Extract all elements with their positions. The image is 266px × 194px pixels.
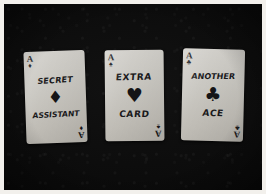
playing-card[interactable]: A ♣ ANOTHER ♣ ACE A ♣ — [181, 48, 245, 141]
corner-index-bottom-right: A ♠ — [155, 123, 161, 138]
card-handwriting-top: EXTRA — [116, 72, 153, 83]
corner-index-bottom-right: A ♣ — [234, 124, 241, 139]
card-handwriting-top: SECRET — [37, 74, 73, 85]
felt-backdrop: A ♦ SECRET ♦ ASSISTANT A ♦ A ♠ EXTRA ♥ C — [4, 4, 262, 190]
diamond-icon: ♦ — [48, 88, 64, 106]
heart-icon: ♥ — [126, 86, 143, 105]
card-handwriting-bottom: ACE — [201, 108, 223, 119]
playing-card[interactable]: A ♠ EXTRA ♥ CARD A ♠ — [105, 50, 165, 142]
spade-icon: ♠ — [156, 123, 160, 130]
club-icon: ♣ — [204, 85, 222, 104]
card-handwriting-bottom: ASSISTANT — [32, 108, 80, 119]
photograph: A ♦ SECRET ♦ ASSISTANT A ♦ A ♠ EXTRA ♥ C — [0, 0, 266, 194]
diamond-icon: ♦ — [79, 124, 83, 131]
corner-index-bottom-right: A ♦ — [78, 124, 85, 139]
card-handwriting-bottom: CARD — [119, 109, 150, 119]
card-handwriting-top: ANOTHER — [191, 72, 236, 81]
club-icon: ♣ — [235, 124, 240, 131]
playing-card[interactable]: A ♦ SECRET ♦ ASSISTANT A ♦ — [23, 50, 87, 144]
